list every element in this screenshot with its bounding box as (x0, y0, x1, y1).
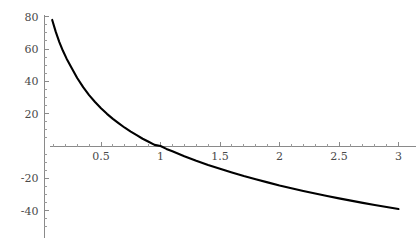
x-tick-label: 1.5 (211, 150, 229, 163)
y-tick-label: 60 (25, 43, 39, 56)
x-tick-label: 2.5 (330, 150, 348, 163)
x-tick-label: 1 (157, 150, 164, 163)
y-tick-label: 40 (25, 75, 39, 88)
data-curve (52, 20, 398, 209)
x-tick-label: 2 (276, 150, 283, 163)
chart-figure: 0.511.522.53-40-2020406080 (0, 0, 419, 247)
curve-line (52, 20, 398, 209)
x-tick-label: 0.5 (92, 150, 110, 163)
plot-canvas: 0.511.522.53-40-2020406080 (0, 0, 419, 247)
x-tick-label: 3 (395, 150, 402, 163)
tick-labels-group: 0.511.522.53-40-2020406080 (21, 11, 402, 218)
axes-group (44, 15, 416, 239)
y-tick-label: 80 (25, 11, 39, 24)
y-tick-label: -20 (21, 172, 39, 185)
y-tick-label: 20 (25, 108, 39, 121)
ticks-group (44, 17, 399, 227)
y-tick-label: -40 (21, 205, 39, 218)
